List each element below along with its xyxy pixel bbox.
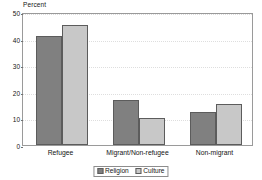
x-axis-category-label: Refugee: [48, 149, 74, 156]
y-axis-tick-mark: [21, 147, 24, 148]
bar: [216, 104, 242, 145]
y-axis-tick-label: 10: [13, 117, 20, 124]
legend-item: Religion: [97, 168, 128, 175]
y-axis-tick-label: 40: [13, 37, 20, 44]
x-axis-category-label: Non-migrant: [196, 149, 233, 156]
x-axis-category-label: Migrant/Non-refugee: [106, 149, 168, 156]
legend-item: Culture: [136, 168, 165, 175]
y-axis-tick-label: 50: [13, 11, 20, 18]
legend-swatch: [136, 168, 142, 174]
legend-swatch: [97, 168, 103, 174]
bar: [36, 36, 62, 145]
plot-area: 01020304050: [22, 13, 253, 146]
bar-chart: Percent 01020304050 RefugeeMigrant/Non-r…: [0, 0, 262, 180]
legend-label: Religion: [105, 168, 129, 175]
y-axis-tick-label: 0: [16, 144, 20, 151]
y-axis-tick-label: 20: [13, 91, 20, 98]
bar: [139, 118, 165, 145]
bar: [113, 100, 139, 145]
legend: ReligionCulture: [93, 166, 168, 177]
bar: [62, 25, 88, 145]
y-axis-tick-label: 30: [13, 64, 20, 71]
bar: [190, 112, 216, 145]
legend-label: Culture: [143, 168, 164, 175]
y-axis-title: Percent: [23, 1, 46, 8]
bars-layer: [23, 14, 252, 145]
